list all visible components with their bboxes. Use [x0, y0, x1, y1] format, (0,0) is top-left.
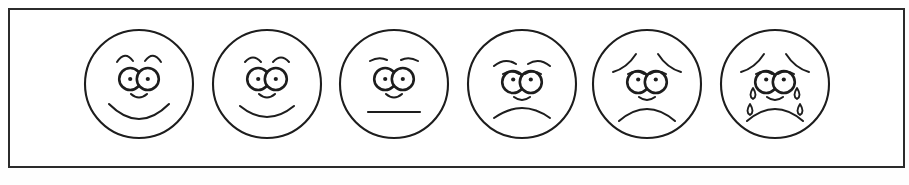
face-drawing-5	[589, 24, 705, 144]
left-pupil-icon	[128, 77, 132, 81]
left-pupil-icon	[511, 77, 515, 81]
right-pupil-icon	[654, 77, 658, 81]
face-drawing-4	[464, 24, 580, 144]
right-pupil-icon	[782, 77, 786, 81]
faces-row	[10, 10, 903, 166]
face-crying[interactable]	[717, 24, 833, 144]
right-eye-icon	[773, 71, 795, 93]
left-pupil-icon	[764, 77, 768, 81]
scale-border-frame	[8, 8, 905, 168]
right-eye-icon	[520, 71, 542, 93]
face-happy[interactable]	[209, 24, 325, 144]
tear-left-lower-icon	[748, 104, 753, 115]
right-pupil-icon	[529, 77, 533, 81]
tear-left-upper-icon	[751, 88, 756, 99]
face-neutral[interactable]	[336, 24, 452, 144]
face-slightly-sad[interactable]	[464, 24, 580, 144]
right-eye-icon	[645, 71, 667, 93]
tear-right-upper-icon	[795, 88, 800, 99]
face-drawing-2	[209, 24, 325, 144]
face-drawing-1	[81, 24, 197, 144]
screenshot-root	[0, 0, 909, 185]
tear-right-lower-icon	[798, 104, 803, 115]
left-pupil-icon	[256, 77, 260, 81]
left-pupil-icon	[383, 77, 387, 81]
left-pupil-icon	[636, 77, 640, 81]
face-drawing-6	[717, 24, 833, 144]
right-pupil-icon	[401, 77, 405, 81]
right-pupil-icon	[274, 77, 278, 81]
face-very-happy[interactable]	[81, 24, 197, 144]
face-sad[interactable]	[589, 24, 705, 144]
face-drawing-3	[336, 24, 452, 144]
right-pupil-icon	[146, 77, 150, 81]
